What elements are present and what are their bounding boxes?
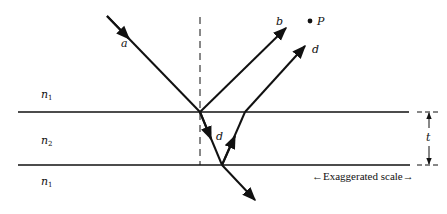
point-p [308, 19, 313, 24]
ray-b [200, 28, 286, 112]
svg-text:1: 1 [48, 94, 52, 102]
label-t: t [426, 131, 431, 144]
svg-text:2: 2 [48, 140, 52, 148]
label-n1-bottom: n 1 [41, 175, 52, 189]
label-d-emerging: d [312, 43, 319, 56]
label-p: P [316, 15, 325, 28]
ray-a [107, 16, 200, 112]
ray-d-emerging [245, 46, 305, 112]
ray-internal-reflection [222, 112, 245, 165]
thin-film-diagram: a b P d d t n 1 n 2 n 1 ←Exaggerated sca… [0, 0, 447, 214]
svg-text:1: 1 [48, 181, 52, 189]
label-n1-top: n 1 [41, 88, 52, 102]
label-n2-film: n 2 [41, 134, 52, 148]
label-d-inside: d [216, 130, 223, 143]
label-a: a [121, 37, 128, 50]
ray-transmitted [222, 165, 255, 200]
scale-note: ←Exaggerated scale→ [312, 170, 414, 182]
label-b: b [276, 15, 283, 28]
